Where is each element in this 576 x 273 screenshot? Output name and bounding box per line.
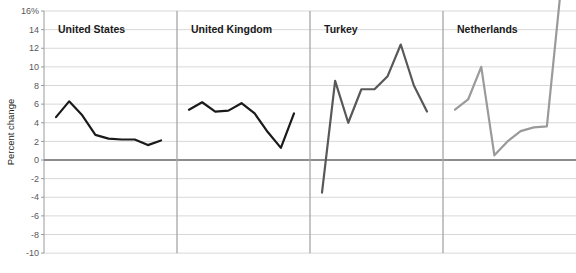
y-tick-label: -10 xyxy=(26,248,39,258)
y-tick-label: 16% xyxy=(21,6,39,16)
y-tick-label: 2 xyxy=(34,137,39,147)
y-tick-label: -4 xyxy=(31,192,39,202)
panel-title-united-kingdom: United Kingdom xyxy=(191,23,272,35)
y-tick-label: 6 xyxy=(34,99,39,109)
panel-title-united-states: United States xyxy=(58,23,125,35)
y-tick-label: 0 xyxy=(34,155,39,165)
y-tick-label: -2 xyxy=(31,174,39,184)
y-tick-label: 4 xyxy=(34,118,39,128)
small-multiples-line-chart: 16%14121086420-2-4-6-8-10 United StatesU… xyxy=(0,0,576,273)
panel-dividers xyxy=(177,11,443,253)
chart-container: 16%14121086420-2-4-6-8-10 United StatesU… xyxy=(0,0,576,273)
y-axis-title: Percent change xyxy=(5,99,16,166)
panel-title-turkey: Turkey xyxy=(324,23,358,35)
panel-titles: United StatesUnited KingdomTurkeyNetherl… xyxy=(58,23,518,35)
y-tick-label: 10 xyxy=(29,62,39,72)
y-axis-tick-labels: 16%14121086420-2-4-6-8-10 xyxy=(21,6,44,258)
y-tick-label: 14 xyxy=(29,25,39,35)
y-tick-label: -6 xyxy=(31,211,39,221)
y-tick-label: 8 xyxy=(34,81,39,91)
y-tick-label: 12 xyxy=(29,43,39,53)
y-axis-title: Percent change xyxy=(5,99,16,166)
panel-title-netherlands: Netherlands xyxy=(457,23,518,35)
y-tick-label: -8 xyxy=(31,230,39,240)
